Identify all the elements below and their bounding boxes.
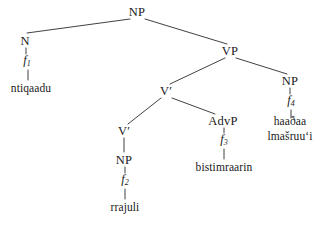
tree-node-vp: VP xyxy=(222,45,238,58)
syntax-tree-figure: NP N f1 ntiqaadu VP V′ NP f4 haaðaa lmaš… xyxy=(0,0,331,226)
tree-terminal-ntiqaadu: ntiqaadu xyxy=(11,83,51,95)
tree-branch-lines xyxy=(0,0,331,226)
tree-node-np-right: NP xyxy=(282,75,298,88)
tree-node-f2: f2 xyxy=(121,173,128,186)
branch-vp-to-np_right xyxy=(236,58,287,74)
branch-root_np-to-vp xyxy=(145,19,227,44)
branch-vbar_upper-to-advp xyxy=(172,98,215,114)
tree-node-vbar-upper: V′ xyxy=(160,85,172,98)
haadaa-line2: lmašruuʻi xyxy=(268,131,313,143)
tree-node-vbar-lower: V′ xyxy=(118,125,130,138)
f3-subscript: 3 xyxy=(224,138,228,147)
tree-node-np-lower: NP xyxy=(116,154,132,167)
branch-vbar_upper-to-vbar_lower xyxy=(128,98,161,124)
tree-node-n: N xyxy=(20,35,29,48)
tree-node-f1: f1 xyxy=(23,54,30,67)
tree-terminal-haadaa-lmasruui: haaðaa lmašruuʻi xyxy=(268,116,313,142)
tree-terminal-rrajuli: rrajuli xyxy=(111,202,140,214)
tree-node-f4: f4 xyxy=(287,94,294,107)
tree-node-advp: AdvP xyxy=(208,115,237,128)
tree-node-root-np: NP xyxy=(129,6,145,19)
f2-subscript: 2 xyxy=(125,178,129,187)
tree-terminal-bistimraarin: bistimraarin xyxy=(196,162,253,174)
branch-vp-to-vbar_upper xyxy=(170,58,225,84)
f4-subscript: 4 xyxy=(291,99,295,108)
branch-root_np-to-n_left xyxy=(27,19,130,33)
f1-subscript: 1 xyxy=(27,59,31,68)
haadaa-line1: haaðaa xyxy=(274,115,307,127)
tree-node-f3: f3 xyxy=(220,133,227,146)
